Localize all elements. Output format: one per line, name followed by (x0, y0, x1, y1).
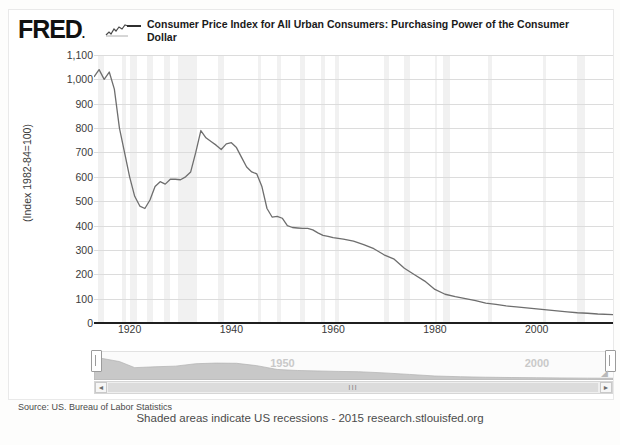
y-axis-label: (Index 1982-84=100) (21, 93, 33, 253)
fred-chart-screenshot: FRED. Consumer Price Index for All Urban… (0, 0, 620, 445)
x-tick-label: 2000 (525, 323, 548, 335)
y-tick-label: 200 (39, 269, 93, 279)
scrollbar-grip-icon: III (348, 385, 358, 391)
range-navigator[interactable]: 1950 2000 (94, 351, 613, 380)
cut-off-top-text (0, 0, 620, 9)
scrollbar-thumb[interactable]: III (108, 383, 598, 392)
plot-wrapper: (Index 1982-84=100) 01002003004005006007… (9, 55, 613, 345)
fred-logo-text: FRED (18, 15, 82, 43)
x-axis-ticks: 19201940196019802000 (94, 323, 613, 343)
source-note: Source: US. Bureau of Labor Statistics (18, 402, 172, 412)
navigator-handle-left[interactable] (91, 350, 102, 372)
y-tick-label: 900 (39, 99, 93, 109)
y-tick-label: 700 (39, 147, 93, 157)
scroll-left-arrow-icon[interactable]: ◄ (95, 382, 107, 393)
scroll-right-arrow-icon[interactable]: ► (600, 382, 612, 393)
footer-note: Shaded areas indicate US recessions - 20… (0, 412, 620, 424)
y-tick-label: 100 (39, 294, 93, 304)
legend-line-marker-icon (127, 25, 141, 27)
x-tick-label: 1980 (423, 323, 446, 335)
plot-area[interactable] (94, 55, 613, 323)
fred-chart-card: FRED. Consumer Price Index for All Urban… (8, 9, 614, 400)
x-tick-label: 1960 (321, 323, 344, 335)
y-tick-label: 600 (39, 172, 93, 182)
series-line (94, 70, 613, 315)
y-tick-label: 0 (39, 318, 93, 328)
chart-legend: Consumer Price Index for All Urban Consu… (127, 18, 597, 44)
legend-item[interactable]: Consumer Price Index for All Urban Consu… (127, 18, 597, 44)
y-tick-label: 500 (39, 196, 93, 206)
x-tick-label: 1920 (118, 323, 141, 335)
y-tick-label: 1,100 (39, 50, 93, 60)
series-svg (94, 55, 613, 323)
y-tick-label: 400 (39, 221, 93, 231)
y-tick-label: 800 (39, 123, 93, 133)
fred-logo-dot: . (82, 27, 84, 41)
legend-series-label: Consumer Price Index for All Urban Consu… (147, 18, 587, 44)
y-axis-ticks: 01002003004005006007008009001,0001,100 (33, 55, 93, 345)
y-tick-label: 300 (39, 245, 93, 255)
sparkline-icon (105, 23, 129, 37)
horizontal-scrollbar[interactable]: ◄ III ► (94, 381, 613, 394)
y-tick-label: 1,000 (39, 74, 93, 84)
fred-logo[interactable]: FRED. (18, 17, 84, 47)
navigator-label-2000: 2000 (525, 357, 549, 369)
navigator-label-1950: 1950 (270, 357, 294, 369)
chart-header: FRED. Consumer Price Index for All Urban… (9, 10, 613, 55)
resize-grip-icon[interactable]: ◢ (601, 369, 609, 377)
x-tick-label: 1940 (220, 323, 243, 335)
